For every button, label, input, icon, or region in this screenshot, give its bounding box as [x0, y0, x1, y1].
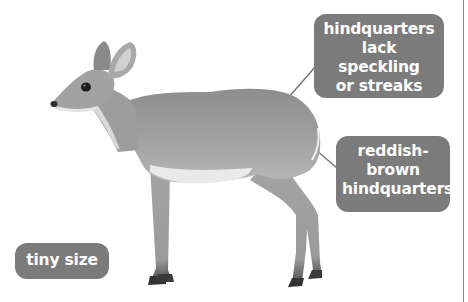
- callout-hindquarters-color: reddish- brown hindquarters: [336, 136, 450, 212]
- callout-hindquarters-pattern-line-2: lack speckling: [320, 39, 438, 77]
- leader-line-pattern: [288, 66, 316, 98]
- callout-hindquarters-color-line-1: reddish-: [342, 142, 444, 161]
- callout-size-line-1: tiny size: [21, 251, 103, 270]
- callout-hindquarters-pattern-line-1: hindquarters: [320, 20, 438, 39]
- callout-hindquarters-pattern: hindquarters lack speckling or streaks: [314, 14, 444, 98]
- callout-size: tiny size: [15, 243, 109, 279]
- callout-hindquarters-color-line-2: brown: [342, 161, 444, 180]
- callout-hindquarters-color-line-3: hindquarters: [342, 180, 444, 199]
- callout-hindquarters-pattern-line-3: or streaks: [320, 77, 438, 96]
